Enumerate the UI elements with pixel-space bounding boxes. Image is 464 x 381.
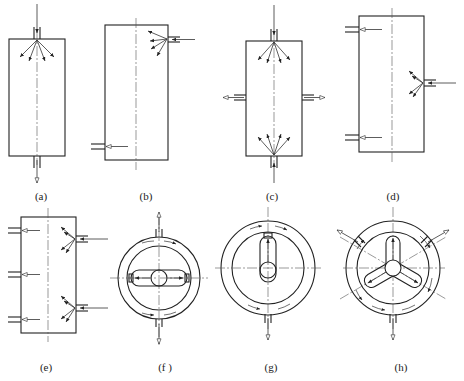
panel-c [223, 5, 325, 183]
label-a: (a) [35, 190, 47, 202]
spray-fan-icon [409, 71, 423, 97]
spray-fan-icon [61, 227, 75, 253]
label-c: (c) [266, 190, 278, 202]
panel-a [9, 4, 65, 183]
label-d: (d) [387, 190, 400, 202]
spray-fan-icon [148, 31, 167, 56]
panel-f [110, 212, 208, 345]
panel-d [345, 8, 456, 162]
label-b: (b) [140, 190, 153, 202]
label-h: (h) [395, 361, 408, 373]
vessel-body [359, 16, 424, 152]
panel-b [91, 18, 195, 170]
panel-e [8, 208, 108, 342]
panel-h [337, 207, 449, 340]
panel-g [215, 207, 322, 340]
label-f: (f ) [158, 361, 172, 373]
hub [385, 260, 401, 276]
label-e: (e) [40, 361, 52, 373]
label-g: (g) [265, 361, 278, 373]
vessel-body [105, 25, 168, 160]
spray-fan-icon [61, 296, 75, 322]
